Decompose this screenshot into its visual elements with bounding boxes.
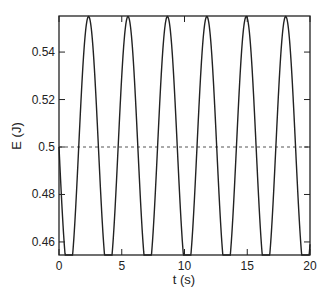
x-axis-label: t (s) (173, 272, 195, 287)
x-tick-label: 0 (56, 259, 63, 273)
x-tick-label: 5 (118, 259, 125, 273)
energy-curve (59, 16, 310, 255)
energy-time-chart: 051015200.460.480.50.520.54 t (s) E (J) (0, 0, 330, 300)
y-tick-label: 0.5 (38, 140, 55, 154)
y-tick-label: 0.54 (32, 45, 56, 59)
y-tick-label: 0.48 (32, 187, 56, 201)
y-tick-label: 0.46 (32, 235, 56, 249)
x-tick-label: 15 (241, 259, 255, 273)
y-tick-label: 0.52 (32, 93, 56, 107)
x-tick-label: 20 (303, 259, 317, 273)
plot-area (59, 16, 310, 255)
y-axis-label: E (J) (9, 122, 24, 149)
x-tick-label: 10 (178, 259, 192, 273)
